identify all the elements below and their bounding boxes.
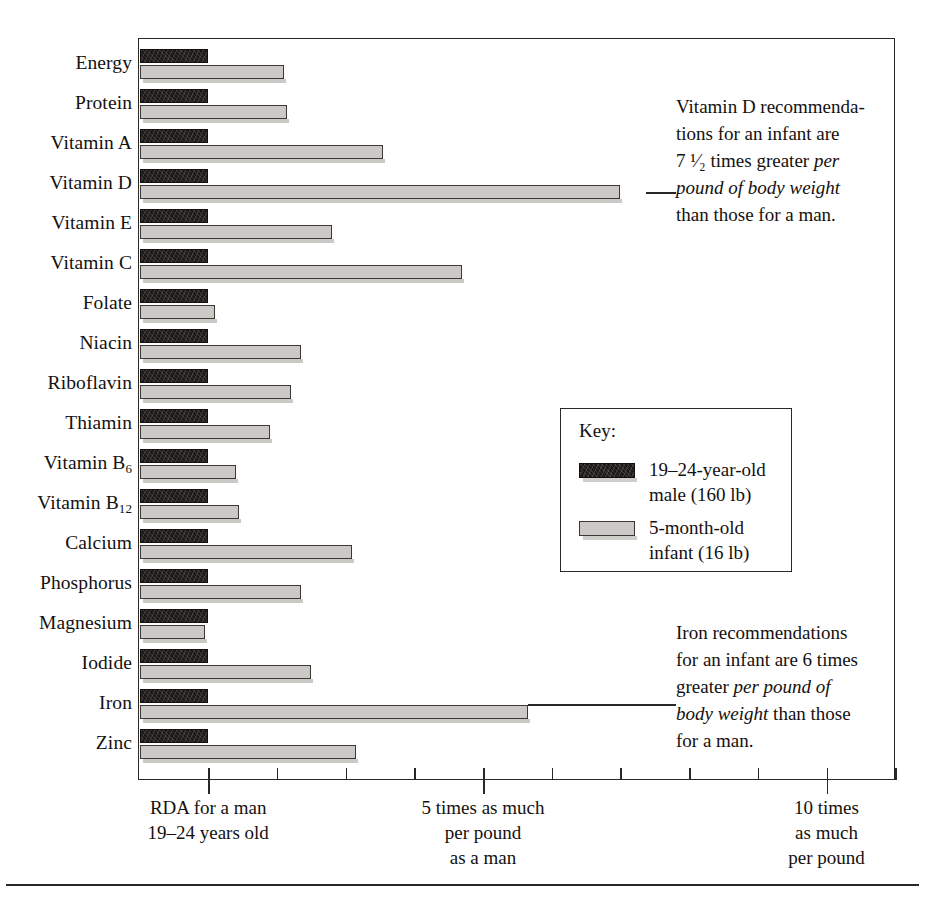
bar-male-vitamin-b6	[140, 449, 209, 463]
bar-male-vitamin-e	[140, 209, 209, 223]
legend-label-male: 19–24-year-old male (160 lb)	[649, 457, 766, 507]
category-axis-labels: EnergyProteinVitamin AVitamin DVitamin E…	[0, 38, 132, 780]
bar-male-vitamin-b12	[140, 489, 209, 503]
bar-infant-protein	[140, 105, 288, 119]
x-axis-ticks	[138, 780, 895, 794]
bar-infant-thiamin	[140, 425, 271, 439]
bar-infant-vitamin-c	[140, 265, 463, 279]
category-label-vitamin-b12: Vitamin B12	[0, 493, 132, 515]
x-tick-3	[346, 768, 348, 780]
bar-row	[140, 368, 894, 408]
x-tick-8	[689, 768, 691, 780]
category-label-vitamin-d: Vitamin D	[0, 173, 132, 193]
bar-row	[140, 568, 894, 608]
bar-male-calcium	[140, 529, 209, 543]
bar-male-niacin	[140, 329, 209, 343]
bar-male-riboflavin	[140, 369, 209, 383]
annotation-iron: Iron recommendationsfor an infant are 6 …	[676, 619, 918, 754]
bar-row	[140, 248, 894, 288]
bar-infant-energy	[140, 65, 284, 79]
category-label-iodide: Iodide	[0, 653, 132, 673]
bar-male-vitamin-c	[140, 249, 209, 263]
bar-infant-calcium	[140, 545, 353, 559]
page-bottom-rule	[6, 884, 919, 886]
x-tick-7	[620, 768, 622, 780]
bar-infant-zinc	[140, 745, 356, 759]
x-axis-caption-10x: 10 timesas muchper pound	[717, 795, 925, 870]
x-axis-caption-1x: RDA for a man19–24 years old	[98, 795, 318, 845]
bar-male-thiamin	[140, 409, 209, 423]
x-axis-caption-5x: 5 times as muchper poundas a man	[373, 795, 593, 870]
category-label-vitamin-b6: Vitamin B6	[0, 453, 132, 475]
bar-male-folate	[140, 289, 209, 303]
x-tick-2	[277, 768, 279, 780]
category-label-riboflavin: Riboflavin	[0, 373, 132, 393]
category-label-vitamin-e: Vitamin E	[0, 213, 132, 233]
bar-infant-phosphorus	[140, 585, 301, 599]
x-tick-5	[483, 768, 485, 794]
category-label-phosphorus: Phosphorus	[0, 573, 132, 593]
legend-swatch-male	[579, 463, 635, 478]
bar-male-iodide	[140, 649, 209, 663]
bar-male-vitamin-d	[140, 169, 209, 183]
category-label-vitamin-c: Vitamin C	[0, 253, 132, 273]
bar-infant-riboflavin	[140, 385, 291, 399]
category-label-magnesium: Magnesium	[0, 613, 132, 633]
bar-infant-iodide	[140, 665, 312, 679]
bar-infant-vitamin-e	[140, 225, 332, 239]
x-tick-6	[552, 768, 554, 780]
x-tick-1	[208, 768, 210, 794]
bar-infant-niacin	[140, 345, 301, 359]
bar-infant-vitamin-d	[140, 185, 621, 199]
bar-infant-vitamin-b6	[140, 465, 236, 479]
annotation-leader-iron	[528, 704, 676, 706]
bar-infant-iron	[140, 705, 528, 719]
bar-infant-folate	[140, 305, 216, 319]
bar-infant-vitamin-b12	[140, 505, 240, 519]
category-label-folate: Folate	[0, 293, 132, 313]
x-tick-11	[895, 768, 897, 780]
legend-swatch-infant	[579, 521, 635, 536]
category-label-thiamin: Thiamin	[0, 413, 132, 433]
category-label-protein: Protein	[0, 93, 132, 113]
x-tick-9	[758, 768, 760, 780]
bar-male-iron	[140, 689, 209, 703]
legend-label-infant: 5-month-old infant (16 lb)	[649, 515, 749, 565]
category-label-vitamin-a: Vitamin A	[0, 133, 132, 153]
category-label-energy: Energy	[0, 53, 132, 73]
bar-male-magnesium	[140, 609, 209, 623]
bar-male-energy	[140, 49, 209, 63]
bar-male-zinc	[140, 729, 209, 743]
category-label-niacin: Niacin	[0, 333, 132, 353]
bar-infant-vitamin-a	[140, 145, 384, 159]
bar-row	[140, 328, 894, 368]
bar-row	[140, 48, 894, 88]
nutrient-rda-comparison-figure: EnergyProteinVitamin AVitamin DVitamin E…	[0, 0, 925, 898]
category-label-calcium: Calcium	[0, 533, 132, 553]
legend-key-box: Key: 19–24-year-old male (160 lb) 5-mont…	[560, 408, 792, 572]
bar-male-protein	[140, 89, 209, 103]
bar-male-phosphorus	[140, 569, 209, 583]
bar-male-vitamin-a	[140, 129, 209, 143]
x-tick-10	[827, 768, 829, 794]
annotation-leader-vitamin-d	[646, 192, 676, 194]
bar-row	[140, 288, 894, 328]
category-label-zinc: Zinc	[0, 733, 132, 753]
bar-infant-magnesium	[140, 625, 205, 639]
category-label-iron: Iron	[0, 693, 132, 713]
legend-title: Key:	[579, 420, 616, 442]
annotation-vitamin-d: Vitamin D recommenda-tions for an infant…	[676, 93, 914, 228]
x-tick-4	[414, 768, 416, 780]
